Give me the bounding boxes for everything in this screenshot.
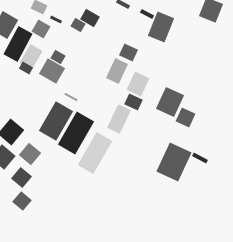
rectangle xyxy=(31,0,48,14)
rectangle xyxy=(12,191,32,211)
rectangle xyxy=(199,0,223,23)
rectangle xyxy=(50,16,62,24)
rectangle xyxy=(119,43,138,61)
rectangle xyxy=(19,143,42,166)
rectangle xyxy=(116,0,130,9)
rectangle xyxy=(0,119,24,146)
rectangle xyxy=(0,144,16,169)
rectangle xyxy=(64,93,77,101)
rectangle xyxy=(127,72,150,97)
rectangle xyxy=(106,58,128,84)
rectangle xyxy=(107,104,131,133)
rectangle xyxy=(156,142,191,181)
rectangle xyxy=(31,19,50,38)
rectangle xyxy=(176,108,196,128)
rectangle xyxy=(192,152,208,163)
rectangle xyxy=(140,9,154,19)
abstract-rectangle-scene xyxy=(0,0,233,242)
rectangle xyxy=(11,167,32,188)
